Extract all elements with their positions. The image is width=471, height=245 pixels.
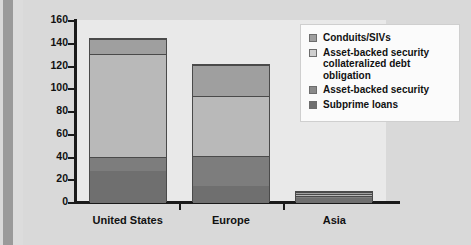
y-axis-label: 60 [34, 128, 68, 138]
y-axis-label: 120 [34, 60, 68, 70]
x-axis-label-asia: Asia [283, 214, 386, 226]
y-axis-label: 140 [34, 37, 68, 47]
y-axis-label: 100 [34, 82, 68, 92]
legend-item: Asset-backed security collateralized deb… [309, 47, 453, 82]
bar-segment [90, 171, 166, 203]
y-axis-labels: 160140120100806040200 [28, 0, 68, 245]
bar-segment [296, 198, 372, 203]
legend-swatch-icon [309, 34, 317, 42]
legend-swatch-icon [309, 49, 317, 57]
y-axis-label: 0 [34, 196, 68, 206]
y-axis-tick [68, 43, 75, 45]
bar-segment [90, 39, 166, 54]
legend-label: Asset-backed security [323, 84, 429, 96]
y-axis-label: 40 [34, 151, 68, 161]
y-axis-label: 20 [34, 173, 68, 183]
left-edge-band-dark [3, 0, 13, 245]
legend-label: Subprime loans [323, 99, 398, 111]
legend-item: Conduits/SIVs [309, 32, 453, 44]
x-axis-tick [283, 203, 285, 210]
y-axis-tick [68, 202, 75, 204]
legend-item: Asset-backed security [309, 84, 453, 96]
y-axis-tick [68, 179, 75, 181]
bar-segment [193, 186, 269, 203]
legend-item: Subprime loans [309, 99, 453, 111]
left-edge-band-light [13, 0, 23, 245]
bar-asia [295, 191, 373, 202]
bar-segment [90, 157, 166, 171]
y-axis-tick [68, 20, 75, 22]
bar-segment [90, 54, 166, 158]
legend-label: Asset-backed security collateralized deb… [323, 47, 453, 82]
legend-swatch-icon [309, 101, 317, 109]
legend-label: Conduits/SIVs [323, 32, 391, 44]
chart-legend: Conduits/SIVsAsset-backed security colla… [300, 24, 460, 122]
bar-segment [193, 156, 269, 186]
bar-europe [192, 64, 270, 202]
y-axis-tick [68, 88, 75, 90]
bar-united-states [89, 38, 167, 202]
y-axis-tick [68, 134, 75, 136]
bar-segment [193, 65, 269, 96]
chart-page: 160140120100806040200 United StatesEurop… [0, 0, 471, 245]
x-axis-tick [179, 203, 181, 210]
y-axis-tick [68, 157, 75, 159]
y-axis-label: 160 [34, 14, 68, 24]
legend-swatch-icon [309, 86, 317, 94]
bar-segment [193, 96, 269, 156]
y-axis-tick [68, 111, 75, 113]
y-axis-tick [68, 66, 75, 68]
y-axis-label: 80 [34, 105, 68, 115]
x-axis-label-united-states: United States [76, 214, 179, 226]
x-axis-label-europe: Europe [179, 214, 282, 226]
